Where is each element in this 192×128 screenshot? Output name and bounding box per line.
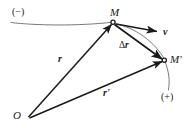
label-vector-delta-r: Δr <box>119 41 129 51</box>
vector-r-arrow <box>29 25 112 118</box>
point-marker-m-prime <box>162 58 166 62</box>
point-marker-m <box>111 20 115 24</box>
label-vector-r: r <box>58 54 62 64</box>
label-point-m: M <box>110 7 119 18</box>
label-sign-negative: (−) <box>12 7 24 17</box>
trajectory-curve <box>11 22 113 25</box>
label-origin: O <box>13 110 21 121</box>
label-vector-r-prime: r' <box>103 88 110 98</box>
label-sign-positive: (+) <box>161 92 173 102</box>
displacement-vector-figure: (−) M M' O r r' v Δr (+) <box>0 0 192 128</box>
label-point-m-prime: M' <box>170 54 182 65</box>
figure-canvas <box>0 0 192 128</box>
label-vector-v: v <box>163 27 167 37</box>
delta-r-symbol: r <box>125 40 129 50</box>
vector-r-prime-arrow <box>30 62 163 119</box>
trajectory-curve-tail <box>165 62 169 91</box>
